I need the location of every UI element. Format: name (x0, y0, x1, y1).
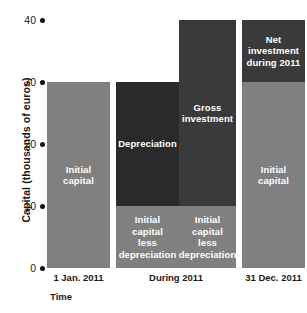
plot-area: Initial capitalInitial capital less depr… (47, 20, 305, 268)
bar-bar-gross-investment: Initial capital less depreciationGross i… (179, 20, 236, 268)
y-axis-tick-dot-icon (40, 80, 45, 85)
y-axis-tick: 40 (24, 14, 47, 26)
bar-segment: Initial capital (242, 82, 305, 268)
y-axis-tick-label: 0 (30, 262, 36, 274)
y-axis-tick-label: 10 (24, 200, 36, 212)
bar-segment-label: Initial capital less depreciation (119, 214, 177, 260)
y-axis-tick-label: 30 (24, 76, 36, 88)
bar-bar-initial-capital: Initial capital (47, 82, 110, 268)
y-axis-ticks: 010203040 (0, 0, 47, 313)
bar-segment: Gross investment (179, 20, 236, 206)
capital-stacked-bar-chart: Capital (thousands of euros) 010203040 I… (0, 0, 307, 313)
y-axis-tick-label: 20 (24, 138, 36, 150)
bar-segment: Depreciation (116, 82, 179, 206)
bar-segment-label: Gross investment (182, 102, 233, 125)
bar-segment-label: Initial capital (63, 164, 94, 187)
y-axis-tick-dot-icon (40, 18, 45, 23)
bar-bar-net-investment: Initial capitalNet investment during 201… (242, 20, 305, 268)
bar-segment: Initial capital less depreciation (179, 206, 236, 268)
bar-segment-label: Initial capital less depreciation (179, 214, 237, 260)
y-axis-tick: 20 (24, 138, 47, 150)
y-axis-tick-dot-icon (40, 204, 45, 209)
bar-segment-label: Depreciation (118, 138, 177, 150)
x-axis-category-label: 31 Dec. 2011 (242, 272, 305, 283)
bar-segment-label: Net investment during 2011 (247, 34, 301, 69)
y-axis-tick-label: 40 (24, 14, 36, 26)
x-axis-category-label: 1 Jan. 2011 (47, 272, 110, 283)
bar-segment-label: Initial capital (258, 164, 289, 187)
y-axis-tick: 30 (24, 76, 47, 88)
bar-bar-depreciation: Initial capital less depreciationDepreci… (116, 82, 179, 268)
y-axis-tick: 0 (30, 262, 47, 274)
x-axis-category-label: During 2011 (116, 272, 236, 283)
y-axis-tick-dot-icon (40, 142, 45, 147)
bar-segment: Initial capital (47, 82, 110, 268)
x-axis-tick-labels: 1 Jan. 2011During 201131 Dec. 2011 (47, 272, 305, 288)
y-axis-tick-dot-icon (40, 266, 45, 271)
x-axis-title: Time (50, 291, 72, 302)
bar-segment: Initial capital less depreciation (116, 206, 179, 268)
y-axis-tick: 10 (24, 200, 47, 212)
bar-segment: Net investment during 2011 (242, 20, 305, 82)
